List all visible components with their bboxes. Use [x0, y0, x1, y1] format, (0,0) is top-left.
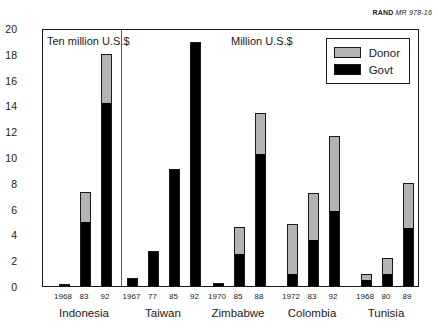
bar-segment-govt [382, 274, 393, 286]
x-tick-year: 92 [190, 292, 199, 301]
scale-divider [121, 30, 122, 286]
y-tick-label-10: 10 [5, 152, 17, 164]
legend-swatch-govt [334, 64, 361, 75]
chart-plot-area: Ten million U.S.$ Million U.S.$ Donor Go… [42, 29, 419, 287]
x-tick-year: 85 [169, 292, 178, 301]
bar-segment-govt [59, 285, 70, 286]
bar-segment-govt [403, 228, 414, 286]
bar-segment-govt [329, 211, 340, 286]
bar-segment-donor [308, 193, 319, 239]
y-tick-label-8: 8 [11, 178, 17, 190]
bar-segment-govt [361, 280, 372, 286]
x-tick-year: 1970 [208, 292, 226, 301]
bar [59, 284, 70, 286]
legend-label-donor: Donor [369, 47, 400, 59]
x-tick-year: 80 [382, 292, 391, 301]
y-axis: 02468101214161820 [0, 0, 42, 332]
bar [101, 54, 112, 286]
y-tick-label-12: 12 [5, 126, 17, 138]
bar-segment-govt [169, 169, 180, 286]
bar-segment-govt [80, 222, 91, 287]
x-tick-year: 89 [403, 292, 412, 301]
x-tick-year: 88 [255, 292, 264, 301]
bar-segment-govt [287, 274, 298, 286]
y-tick-label-16: 16 [5, 75, 17, 87]
bar-segment-govt [190, 42, 201, 286]
x-axis: 19688392Indonesia1967778592Taiwan1970858… [42, 287, 419, 332]
bar-segment-donor [329, 136, 340, 211]
bar [169, 169, 180, 286]
bar-segment-govt [148, 251, 159, 286]
y-tick-label-6: 6 [11, 204, 17, 216]
bar [255, 113, 266, 286]
y-tick-label-4: 4 [11, 229, 17, 241]
y-tick-label-20: 20 [5, 23, 17, 35]
bar-segment-donor [382, 258, 393, 275]
bar-segment-govt [234, 254, 245, 286]
x-tick-year: 85 [234, 292, 243, 301]
rand-document-id: MR 978-16 [396, 9, 432, 16]
bar [403, 183, 414, 286]
x-axis-country-indonesia: Indonesia [59, 307, 109, 319]
bar-segment-govt [308, 240, 319, 286]
bar-segment-donor [101, 54, 112, 103]
legend-item-govt: Govt [334, 61, 400, 78]
x-tick-year: 1968 [356, 292, 374, 301]
x-axis-country-colombia: Colombia [288, 307, 337, 319]
bar [382, 258, 393, 286]
bar-segment-govt [255, 154, 266, 286]
x-axis-country-tunisia: Tunisia [368, 307, 405, 319]
bar-segment-donor [287, 224, 298, 274]
y-tick-label-2: 2 [11, 255, 17, 267]
y-tick-label-0: 0 [11, 281, 17, 293]
bar [287, 224, 298, 286]
bar [329, 136, 340, 286]
bar-segment-govt [101, 103, 112, 286]
legend-label-govt: Govt [369, 64, 393, 76]
bar [234, 227, 245, 286]
legend-swatch-donor [334, 47, 361, 58]
x-tick-year: 92 [329, 292, 338, 301]
bar-segment-donor [255, 113, 266, 154]
bar [361, 274, 372, 286]
bar-segment-govt [127, 278, 138, 286]
bar-group-taiwan [127, 30, 201, 286]
x-tick-year: 77 [148, 292, 157, 301]
bar-segment-donor [403, 183, 414, 228]
bar-group-zimbabwe [213, 30, 266, 286]
rand-attribution: RAND MR 978-16 [372, 9, 432, 16]
chart-legend: Donor Govt [326, 38, 410, 84]
x-tick-year: 1967 [123, 292, 141, 301]
legend-item-donor: Donor [334, 44, 400, 61]
bar [148, 251, 159, 286]
x-tick-year: 1968 [54, 292, 72, 301]
x-tick-year: 83 [80, 292, 89, 301]
x-axis-country-taiwan: Taiwan [145, 307, 181, 319]
rand-org-label: RAND [372, 9, 393, 16]
bar [213, 283, 224, 286]
y-tick-label-14: 14 [5, 100, 17, 112]
y-tick-label-18: 18 [5, 49, 17, 61]
bar [308, 193, 319, 286]
x-tick-year: 92 [101, 292, 110, 301]
x-tick-year: 1972 [282, 292, 300, 301]
bar-segment-govt [213, 283, 224, 286]
bar-group-indonesia [59, 30, 112, 286]
bar-segment-donor [234, 227, 245, 254]
bar-segment-donor [80, 192, 91, 222]
bar [80, 192, 91, 286]
x-tick-year: 83 [308, 292, 317, 301]
x-axis-country-zimbabwe: Zimbabwe [211, 307, 264, 319]
bar [127, 278, 138, 286]
bar [190, 42, 201, 286]
